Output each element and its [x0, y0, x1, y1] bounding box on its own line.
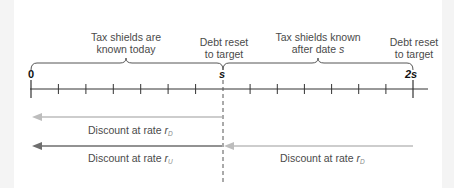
rate-subscript: U [168, 158, 173, 165]
left-brace-label-line2: known today [86, 43, 166, 55]
right-brace-label-prefix: after date [292, 43, 339, 55]
arrow-ru-first-period [32, 142, 222, 150]
right-brace-label-line2: after date s [268, 43, 368, 55]
discount-prefix: Discount at rate [88, 124, 164, 136]
arrow-rd-second-period [224, 142, 413, 150]
rate-subscript: D [168, 130, 173, 137]
tick-label-zero: 0 [28, 68, 34, 80]
end-reset-label-line1: Debt reset [386, 36, 442, 48]
arrow-rd-first-period [32, 113, 222, 121]
discount-prefix: Discount at rate [280, 152, 356, 164]
mid-reset-label-line2: to target [196, 48, 252, 60]
discount-label-rd-second: Discount at rate rD [280, 152, 365, 165]
right-brace-label: Tax shields known after date s [268, 31, 368, 55]
left-brace-label-line1: Tax shields are [86, 31, 166, 43]
tick-label-2s: 2s [405, 68, 417, 80]
tick-label-s: s [219, 68, 225, 80]
mid-reset-label: Debt reset to target [196, 36, 252, 60]
discount-label-rd-first: Discount at rate rD [88, 124, 173, 137]
rate-subscript: D [360, 158, 365, 165]
right-brace-label-line1: Tax shields known [268, 31, 368, 43]
end-reset-label-line2: to target [386, 48, 442, 60]
end-reset-label: Debt reset to target [386, 36, 442, 60]
mid-reset-label-line1: Debt reset [196, 36, 252, 48]
left-brace-label: Tax shields are known today [86, 31, 166, 55]
timeline-diagram [0, 0, 454, 188]
right-brace-label-var: s [339, 43, 344, 55]
left-brace [31, 58, 223, 70]
discount-prefix: Discount at rate [88, 152, 164, 164]
discount-label-ru-first: Discount at rate rU [88, 152, 173, 165]
